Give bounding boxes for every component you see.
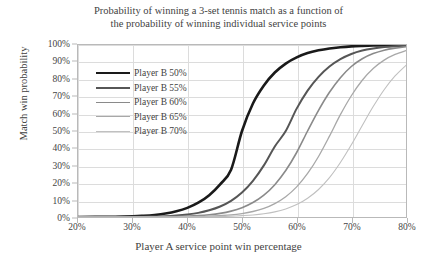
y-axis-tick-label: 100% [28,39,70,49]
x-axis-tick-label: 70% [332,222,372,232]
legend-line-swatch [96,72,130,74]
legend-item: Player B 60% [96,95,187,110]
y-axis-tick-label: 30% [28,161,70,171]
chart-title-line-1: Probability of winning a 3-set tennis ma… [0,4,437,17]
x-axis-tick-label: 20% [57,222,97,232]
y-axis-tick-label: 90% [28,56,70,66]
y-axis-tick-label: 80% [28,74,70,84]
x-axis-tick-label: 30% [112,222,152,232]
legend-item: Player B 55% [96,81,187,96]
y-axis-tick-label: 20% [28,178,70,188]
legend-label: Player B 55% [134,83,187,93]
x-axis-tick-mark [297,218,298,223]
x-axis-tick-label: 40% [167,222,207,232]
y-axis-tick-label: 10% [28,196,70,206]
x-axis-tick-label: 60% [277,222,317,232]
x-axis-tick-label: 80% [387,222,427,232]
y-axis-tick-label: 50% [28,126,70,136]
x-axis-tick-mark [132,218,133,223]
legend-line-swatch [96,131,130,132]
x-axis-tick-mark [77,218,78,223]
y-axis-tick-label: 60% [28,109,70,119]
chart-container: Probability of winning a 3-set tennis ma… [0,0,437,268]
chart-legend: Player B 50%Player B 55%Player B 60%Play… [96,66,187,139]
x-axis-tick-label: 50% [222,222,262,232]
chart-title-line-2: the probability of winning individual se… [0,17,437,30]
y-axis-tick-label: 70% [28,91,70,101]
legend-item: Player B 70% [96,124,187,139]
legend-line-swatch [96,87,130,89]
x-axis-label: Player A service point win percentage [0,240,437,252]
x-axis-tick-mark [407,218,408,223]
legend-item: Player B 65% [96,110,187,125]
y-axis-tick-label: 40% [28,143,70,153]
x-axis-tick-mark [352,218,353,223]
legend-line-swatch [96,116,130,117]
legend-label: Player B 50% [134,68,187,78]
legend-label: Player B 65% [134,112,187,122]
legend-line-swatch [96,102,130,103]
x-axis-tick-mark [242,218,243,223]
legend-item: Player B 50% [96,66,187,81]
legend-label: Player B 60% [134,97,187,107]
chart-title: Probability of winning a 3-set tennis ma… [0,4,437,30]
x-axis-tick-mark [187,218,188,223]
y-axis-label: Match win probability [18,9,29,179]
legend-label: Player B 70% [134,126,187,136]
